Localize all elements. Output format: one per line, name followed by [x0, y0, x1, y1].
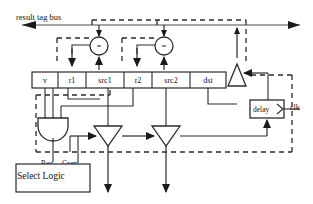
comparator-2-symbol: = — [157, 42, 171, 51]
and-gate-shape — [38, 118, 68, 141]
r2-feed-route — [61, 88, 133, 106]
bus-arrow-left — [22, 21, 36, 29]
diagram-canvas: result tag bus clk delay Req Grant Selec… — [0, 0, 313, 204]
field-r1: r1 — [58, 72, 86, 88]
tristate-buffer-dst — [228, 64, 246, 86]
comparator-2-left-input — [137, 45, 155, 54]
field-src2: src2 — [152, 72, 190, 88]
dashed-box-comparator-2 — [122, 38, 157, 62]
tristate-buffer-src2 — [152, 126, 180, 146]
tristate-dst-enable — [244, 73, 268, 100]
grant-label: Grant — [62, 160, 79, 168]
bus-arrow-right — [288, 21, 300, 29]
comparator-1-symbol: = — [92, 42, 106, 51]
tristate-1-enable — [70, 136, 96, 152]
dashed-box-comparator-1 — [57, 38, 92, 62]
field-r2: r2 — [124, 72, 152, 88]
src1-ready-route — [68, 88, 100, 99]
field-v: v — [32, 72, 58, 88]
comparator-1-left-input — [72, 45, 90, 54]
field-dst: dst — [190, 72, 226, 88]
field-src1: src1 — [86, 72, 124, 88]
result-tag-bus-label: result tag bus — [16, 13, 61, 22]
req-label: Req — [41, 160, 53, 168]
clk-label: clk — [290, 104, 300, 112]
dst-to-tristate-route — [208, 88, 237, 104]
select-logic-label: Select Logic — [17, 172, 65, 182]
tristate-buffer-src1 — [94, 126, 122, 146]
delay-label: delay — [253, 105, 269, 114]
